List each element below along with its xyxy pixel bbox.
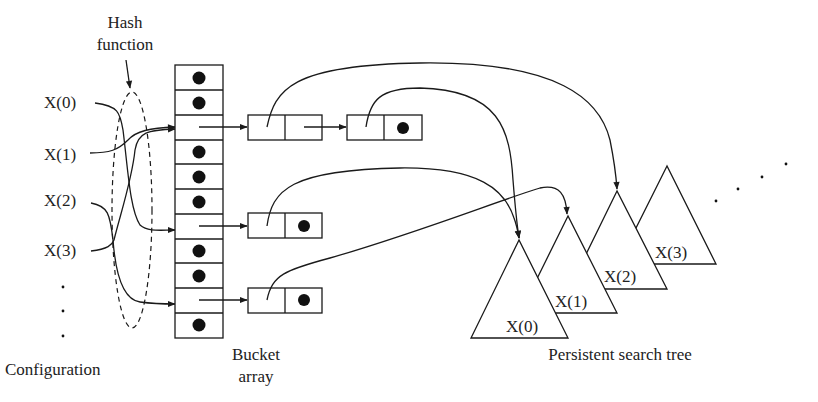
config-item-x1: X(1) <box>44 145 76 164</box>
ellipsis-dot <box>62 286 65 289</box>
bucket-cell-dot <box>193 97 206 110</box>
persistent-search-trees: X(3) X(2) X(1) X(0) <box>471 163 787 338</box>
hash-function-label: Hash function <box>97 13 154 54</box>
bucket-cell-dot <box>193 72 206 85</box>
hash-persistent-tree-diagram: Hash function X(0) X(1) X(2) X(3) Config… <box>0 0 818 402</box>
ellipsis-dot <box>62 335 65 338</box>
config-item-x0: X(0) <box>44 93 76 112</box>
config-item-x3: X(3) <box>44 241 76 260</box>
svg-text:Hash: Hash <box>108 13 143 32</box>
bucket-cell-dot <box>193 270 206 283</box>
list-node-row-2 <box>248 213 322 238</box>
hash-function-ellipse <box>112 92 152 328</box>
bucket-cell-dot <box>193 245 206 258</box>
bucket-array-label: Bucket array <box>232 345 280 386</box>
list-node-dot <box>397 122 409 134</box>
list-node-dot <box>298 220 310 232</box>
config-item-x2: X(2) <box>44 191 76 210</box>
svg-text:Bucket: Bucket <box>232 345 280 364</box>
bucket-cell-dot <box>193 319 206 332</box>
svg-text:X(2): X(2) <box>604 267 636 286</box>
bucket-cell-dot <box>193 196 206 209</box>
svg-text:array: array <box>239 367 274 386</box>
svg-text:X(3): X(3) <box>655 243 687 262</box>
ellipsis-dot <box>785 163 788 166</box>
bucket-array <box>175 65 247 338</box>
ellipsis-dot <box>715 200 718 203</box>
bucket-cell-dot <box>193 146 206 159</box>
list-node-row-3 <box>248 288 322 313</box>
bucket-cell-dot <box>193 171 206 184</box>
ellipsis-dot <box>737 188 740 191</box>
ellipsis-dot <box>761 176 764 179</box>
svg-text:function: function <box>97 35 154 54</box>
list-node-row-1 <box>248 115 422 140</box>
hash-function-pointer-arrow <box>126 60 130 88</box>
ellipsis-dot <box>62 310 65 313</box>
configuration-list: X(0) X(1) X(2) X(3) <box>44 93 76 337</box>
persistent-search-tree-label: Persistent search tree <box>548 345 692 364</box>
configuration-label: Configuration <box>5 360 101 379</box>
list-node-dot <box>298 294 310 306</box>
hash-mapping-curves <box>90 103 175 304</box>
svg-text:X(1): X(1) <box>555 292 587 311</box>
svg-text:X(0): X(0) <box>506 317 538 336</box>
